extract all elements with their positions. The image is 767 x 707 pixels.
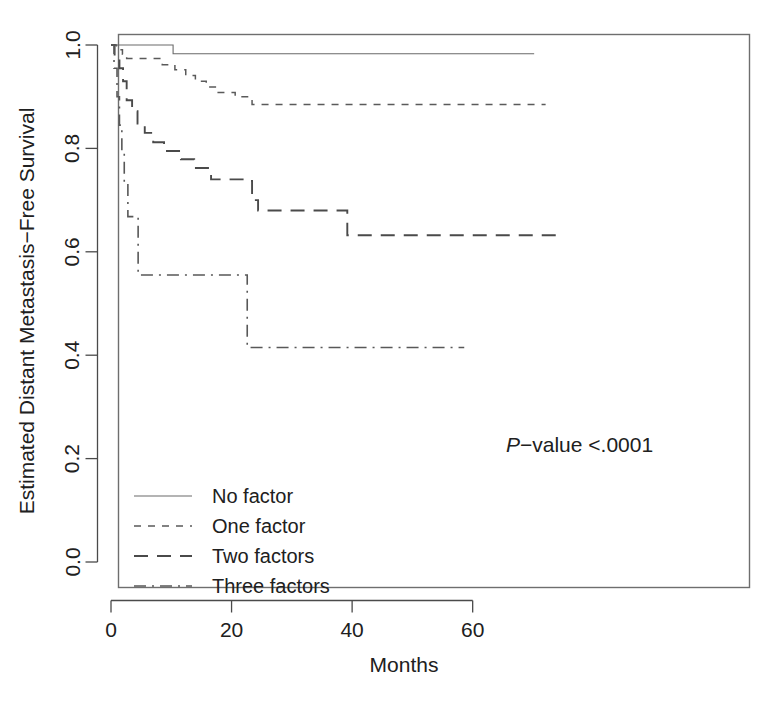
- x-axis-title: Months: [370, 653, 439, 676]
- figure-container: 0.00.20.40.60.81.0 0204060 No factorOne …: [0, 0, 767, 707]
- y-tick-label-1.0: 1.0: [61, 30, 84, 59]
- p-value-rest: −value <.0001: [520, 433, 653, 456]
- survival-curves: [111, 45, 560, 347]
- x-axis: 0204060: [105, 601, 484, 641]
- x-tick-label-40: 40: [340, 618, 363, 641]
- p-value-italic-p: P: [506, 433, 520, 456]
- x-tick-label-60: 60: [461, 618, 484, 641]
- legend: No factorOne factorTwo factorsThree fact…: [134, 485, 330, 597]
- x-tick-label-0: 0: [105, 618, 117, 641]
- y-tick-label-0.0: 0.0: [61, 547, 84, 576]
- curve-no-factor: [111, 45, 534, 54]
- y-axis-title: Estimated Distant Metastasis−Free Surviv…: [15, 108, 38, 515]
- legend-label-two-factors: Two factors: [212, 545, 314, 567]
- x-tick-label-20: 20: [220, 618, 243, 641]
- curve-three-factors: [111, 45, 464, 347]
- y-axis: 0.00.20.40.60.81.0: [61, 30, 98, 576]
- kaplan-meier-plot: 0.00.20.40.60.81.0 0204060 No factorOne …: [0, 0, 767, 707]
- legend-label-one-factor: One factor: [212, 515, 306, 537]
- y-tick-label-0.6: 0.6: [61, 237, 84, 266]
- y-tick-label-0.2: 0.2: [61, 444, 84, 473]
- curve-two-factors: [111, 45, 560, 235]
- p-value-annotation: P−value <.0001: [506, 433, 653, 456]
- y-tick-label-0.8: 0.8: [61, 134, 84, 163]
- y-tick-label-0.4: 0.4: [61, 340, 84, 370]
- legend-label-three-factors: Three factors: [212, 575, 330, 597]
- legend-label-no-factor: No factor: [212, 485, 293, 507]
